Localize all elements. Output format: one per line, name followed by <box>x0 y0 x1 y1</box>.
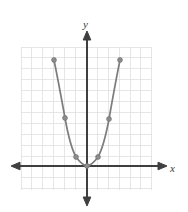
x-axis-label: x <box>170 163 175 174</box>
data-point <box>52 58 57 63</box>
graph-figure: y x <box>0 0 188 212</box>
data-point <box>85 164 90 169</box>
data-point <box>118 58 123 63</box>
x-axis-arrow-right <box>158 162 167 170</box>
data-point <box>107 117 112 122</box>
axis-lines <box>11 31 167 206</box>
coordinate-plane <box>0 0 188 212</box>
y-axis-arrow-down <box>83 197 91 206</box>
x-axis-arrow-left <box>11 162 20 170</box>
y-axis-label: y <box>83 19 88 30</box>
data-point <box>74 155 79 160</box>
data-point <box>96 155 101 160</box>
y-axis-arrow-up <box>83 31 91 40</box>
data-point <box>63 116 68 121</box>
